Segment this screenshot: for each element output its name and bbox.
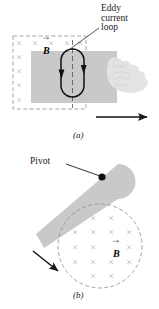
pivot-point xyxy=(98,173,105,180)
vector-arrow-icon-b xyxy=(113,239,120,243)
pivot-leader-line xyxy=(66,164,100,176)
b-symbol-b: B xyxy=(113,248,120,259)
panel-a-letter: (a) xyxy=(73,131,84,140)
panel-b-letter: (b) xyxy=(73,291,84,300)
b-field-label-b: B xyxy=(113,243,120,261)
conducting-plate-a xyxy=(31,51,117,103)
callout-leader-a xyxy=(66,28,99,52)
figure-graphics xyxy=(0,0,159,309)
b-field-label-a: B xyxy=(43,40,50,58)
velocity-arrow-b xyxy=(33,251,58,271)
swinging-plate-b xyxy=(36,164,136,248)
field-marks-b xyxy=(74,217,131,278)
callout-line-3: loop xyxy=(101,23,128,33)
b-symbol-a: B xyxy=(43,45,50,56)
pivot-label: Pivot xyxy=(30,157,50,167)
eddy-current-loop-callout: Eddy current loop xyxy=(101,4,128,33)
eddy-current-figure: Eddy current loop B (a) Pivot B (b) xyxy=(0,0,159,309)
vector-arrow-icon-a xyxy=(43,36,50,40)
